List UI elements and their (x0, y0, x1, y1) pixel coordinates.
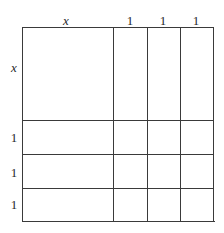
grid-line-h1 (22, 120, 214, 121)
grid-line-top (22, 27, 214, 28)
top-label-1a: 1 (127, 14, 134, 27)
left-label-1b: 1 (11, 166, 18, 179)
left-label-x: x (11, 61, 17, 74)
grid-line-h2 (22, 154, 214, 155)
grid-line-v2 (147, 27, 148, 222)
top-label-1c: 1 (193, 14, 200, 27)
grid-line-right (213, 27, 214, 222)
grid-line-left (22, 27, 23, 222)
grid-line-h3 (22, 188, 214, 189)
grid-line-v3 (180, 27, 181, 222)
left-label-1c: 1 (11, 198, 18, 211)
top-label-1b: 1 (160, 14, 167, 27)
left-label-1a: 1 (11, 131, 18, 144)
grid-line-bottom (22, 221, 215, 222)
top-label-x: x (63, 14, 69, 27)
grid-line-v1 (113, 27, 114, 222)
